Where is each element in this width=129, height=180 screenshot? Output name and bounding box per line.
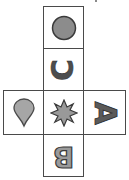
- circle-icon: [51, 15, 77, 41]
- face-left: [3, 90, 44, 135]
- face-center: [43, 90, 84, 135]
- face-right: A: [83, 90, 126, 135]
- letter-b: B: [53, 142, 74, 170]
- face-upper: C: [43, 48, 84, 91]
- teardrop-icon: [12, 98, 36, 128]
- letter-a: A: [90, 101, 120, 124]
- face-top: [43, 6, 84, 49]
- cropped-text-fragment: [95, 0, 97, 2]
- star-icon: [50, 99, 78, 127]
- letter-c: C: [49, 58, 79, 80]
- face-bottom: B: [43, 134, 84, 177]
